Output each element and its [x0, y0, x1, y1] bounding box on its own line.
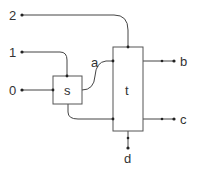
node-label-s: s: [64, 83, 71, 98]
port-dot-t-top: [127, 46, 130, 49]
output-label-c: c: [180, 112, 187, 127]
wire-s-to-t-lower: [68, 104, 113, 119]
mid-dot-c: [161, 118, 164, 121]
input-label-0: 0: [9, 83, 16, 98]
port-dot-t-a: [112, 60, 115, 63]
input-dot-0: [20, 88, 23, 91]
input-dot-1: [20, 50, 23, 53]
string-diagram: 2 1 0 s t a b c d: [0, 0, 198, 174]
output-label-b: b: [180, 54, 187, 69]
port-dot-s-top: [66, 75, 69, 78]
output-label-d: d: [124, 151, 131, 166]
mid-dot-b: [161, 60, 164, 63]
wire-2-to-t: [22, 15, 128, 47]
mid-dot-d: [127, 137, 130, 140]
output-dot-d: [126, 146, 129, 149]
wire-1-to-s: [22, 52, 67, 76]
input-label-2: 2: [9, 8, 16, 23]
node-label-t: t: [125, 83, 129, 98]
wire-label-a: a: [91, 55, 99, 70]
input-dot-2: [20, 13, 23, 16]
output-dot-c: [172, 117, 175, 120]
port-dot-s-left: [52, 89, 55, 92]
port-dot-t-lower: [112, 118, 115, 121]
output-dot-b: [172, 59, 175, 62]
input-label-1: 1: [9, 45, 16, 60]
